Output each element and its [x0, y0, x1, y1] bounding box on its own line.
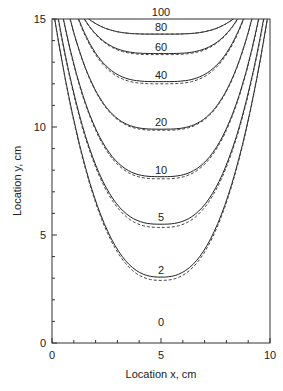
y-tick-label: 5: [40, 229, 46, 241]
y-tick-label: 10: [34, 121, 46, 133]
contour-label-10: 10: [155, 164, 167, 176]
x-tick-label: 0: [49, 349, 55, 361]
y-axis-title: Location y, cm: [11, 146, 23, 216]
contour-lines: [55, 19, 268, 280]
contour-solid-2: [55, 19, 268, 277]
contour-label-2: 2: [158, 264, 164, 276]
tick-labels: 0510051015: [34, 13, 276, 361]
x-axis-title: Location x, cm: [126, 368, 197, 380]
contour-label-20: 20: [155, 116, 167, 128]
contour-label-100: 100: [152, 6, 170, 18]
contour-label-40: 40: [155, 69, 167, 81]
y-tick-label: 15: [34, 13, 46, 25]
contour-label-0: 0: [158, 316, 164, 328]
contour-dashed-2: [55, 19, 268, 280]
x-tick-label: 10: [264, 349, 276, 361]
contour-label-60: 60: [155, 41, 167, 53]
contour-chart: 0510051015 1008060402010520 Location x, …: [0, 0, 283, 391]
contour-label-80: 80: [155, 21, 167, 33]
contour-label-5: 5: [158, 211, 164, 223]
x-tick-label: 5: [158, 349, 164, 361]
y-tick-label: 0: [40, 337, 46, 349]
